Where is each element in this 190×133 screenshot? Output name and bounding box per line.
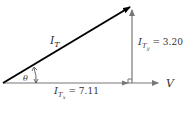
resultant-label: IT <box>49 34 60 49</box>
resultant-arrow <box>3 7 130 83</box>
vertical-component-label: ITy= 3.20 <box>137 36 183 52</box>
phasor-diagram: IT ITy= 3.20 ITx= 7.11 θ V <box>0 0 190 133</box>
angle-theta-label: θ <box>23 74 28 83</box>
reference-axis-label: V <box>166 77 175 90</box>
horizontal-component-label: ITx= 7.11 <box>53 85 99 100</box>
